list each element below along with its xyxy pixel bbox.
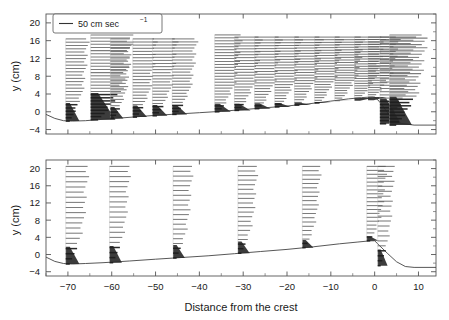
velocity-profile — [367, 166, 387, 240]
near-bed-wedge — [66, 247, 80, 264]
velocity-profile — [302, 166, 321, 247]
velocity-profile — [215, 35, 243, 112]
x-tick-label: −70 — [60, 281, 76, 292]
y-tick-label: −4 — [29, 266, 40, 277]
y-tick-label: 8 — [35, 71, 40, 82]
x-tick-label: −50 — [147, 281, 163, 292]
y-tick-label: −4 — [29, 124, 40, 135]
x-tick-label: −60 — [104, 281, 120, 292]
x-tick-label: −10 — [323, 281, 339, 292]
velocity-profile — [390, 35, 428, 125]
y-tick-label: 20 — [29, 163, 40, 174]
velocity-profile — [172, 39, 198, 115]
near-bed-wedge — [173, 245, 185, 258]
y-tick-label: 20 — [29, 17, 40, 28]
y-tick-label: 12 — [29, 197, 40, 208]
y-tick-label: 0 — [35, 106, 40, 117]
y-tick-label: 16 — [29, 35, 40, 46]
x-tick-label: −30 — [235, 281, 251, 292]
y-tick-label: 4 — [35, 88, 40, 99]
x-tick-label: 0 — [372, 281, 377, 292]
x-tick-label: 10 — [413, 281, 424, 292]
velocity-profile — [378, 166, 395, 265]
y-tick-label: 8 — [35, 215, 40, 226]
lower-panel — [46, 160, 436, 276]
velocity-profile — [173, 166, 193, 258]
y-tick-label: 4 — [35, 232, 40, 243]
y-tick-label: 16 — [29, 180, 40, 191]
x-tick-label: −20 — [279, 281, 295, 292]
near-bed-wedge — [110, 246, 122, 263]
near-bed-wedge — [172, 105, 187, 114]
velocity-profile — [66, 166, 89, 264]
velocity-profile — [238, 166, 258, 253]
figure-root: 201612840−4−70−60−50−40−30−20−1001020161… — [0, 0, 449, 320]
near-bed-wedge — [238, 242, 250, 254]
velocity-profile — [152, 39, 178, 116]
figure-canvas: 201612840−4−70−60−50−40−30−20−1001020161… — [0, 0, 449, 320]
y-tick-label: 0 — [35, 249, 40, 260]
x-tick-label: −40 — [191, 281, 207, 292]
near-bed-wedge — [390, 97, 412, 125]
near-bed-wedge — [215, 104, 231, 112]
y-tick-label: 12 — [29, 53, 40, 64]
velocity-profile — [66, 39, 90, 121]
upper-panel — [46, 14, 436, 134]
velocity-profile — [110, 166, 131, 262]
panel-frame — [46, 160, 436, 276]
